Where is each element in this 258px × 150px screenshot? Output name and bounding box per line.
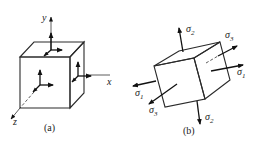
sigma3-right-label: σ3 — [225, 29, 234, 43]
right-shear-z-arrow-icon — [72, 76, 78, 82]
z-axis-hidden — [20, 92, 34, 108]
y-axis-label: y — [41, 12, 47, 23]
sigma3-left-label: σ3 — [149, 104, 158, 118]
sigma2-bottom-label: σ2 — [205, 111, 214, 125]
right-face — [70, 42, 84, 108]
panel-b-caption: (b) — [183, 125, 195, 137]
sigma3-hidden-line — [206, 56, 218, 63]
top-face — [154, 42, 220, 66]
sigma2-top-arrow-icon — [179, 28, 183, 52]
panel-b-cube: σ2 σ3 σ1 σ1 σ3 σ2 (b) — [133, 23, 245, 137]
sigma1-left-label: σ1 — [135, 87, 143, 101]
z-axis-label: z — [12, 116, 17, 127]
x-axis-label: x — [106, 76, 112, 87]
front-normal-arrow-icon — [33, 85, 40, 92]
panel-a-cube: y x z (a) — [11, 12, 112, 134]
top-shear-z-arrow-icon — [44, 50, 51, 56]
sigma1-left-arrow-icon — [133, 81, 156, 86]
sigma1-right-label: σ1 — [237, 66, 245, 80]
front-face — [154, 58, 205, 107]
front-face — [20, 57, 70, 108]
sigma2-top-label: σ2 — [186, 23, 195, 37]
sigma2-bottom-arrow-icon — [197, 101, 200, 124]
stress-element-diagram: y x z (a) σ2 σ3 σ1 σ1 σ3 σ2 (b) — [0, 0, 258, 150]
panel-a-caption: (a) — [44, 122, 55, 134]
sigma3-right-arrow-icon — [218, 46, 237, 56]
